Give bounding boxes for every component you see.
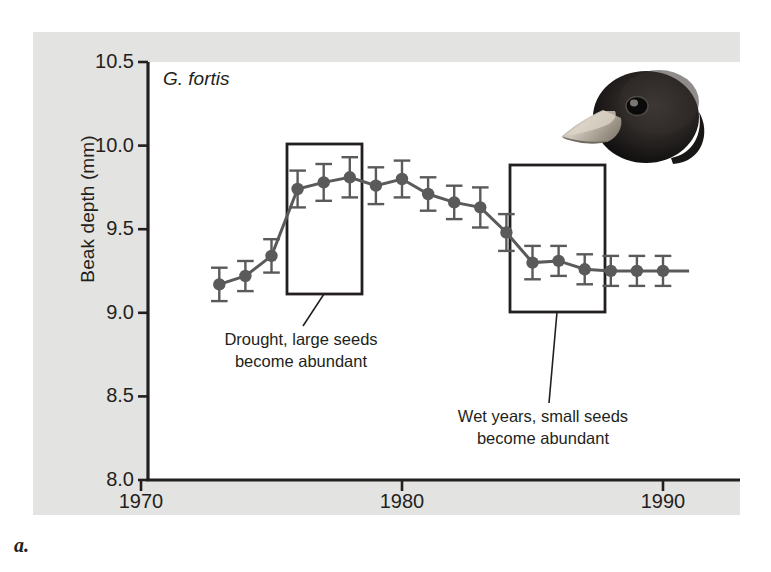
drought-annotation: Drought, large seeds become abundant <box>176 329 426 373</box>
figure-panel: Beak depth (mm) 10.5 10.0 9.5 9.0 8.5 8.… <box>0 0 771 572</box>
wet-years-annotation: Wet years, small seeds become abundant <box>418 406 668 450</box>
drought-leader-line <box>303 294 324 326</box>
wet-years-highlight-box <box>510 165 605 312</box>
figure-caption: a. <box>14 534 29 557</box>
wet-years-annotation-line1: Wet years, small seeds <box>418 406 668 428</box>
data-points-group <box>211 157 671 301</box>
wet-years-annotation-line2: become abundant <box>418 428 668 450</box>
chart-svg <box>0 0 771 572</box>
x-axis-ticks <box>141 480 663 491</box>
drought-annotation-line2: become abundant <box>176 351 426 373</box>
wet-years-leader-line <box>549 312 557 403</box>
drought-annotation-line1: Drought, large seeds <box>176 329 426 351</box>
